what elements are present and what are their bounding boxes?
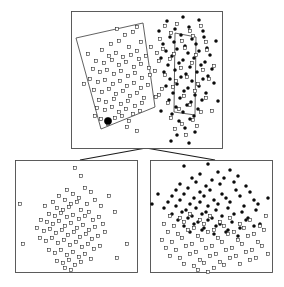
data-point-filled [175, 47, 178, 50]
data-point-filled [182, 164, 185, 167]
data-point-open [241, 243, 244, 246]
data-point-filled [172, 40, 175, 43]
data-point-open [101, 49, 104, 52]
data-point-open [104, 79, 107, 82]
data-point-filled [236, 174, 239, 177]
data-point-filled [200, 228, 203, 231]
data-point-open [68, 206, 71, 209]
data-point-open [209, 215, 212, 218]
data-point-open [40, 219, 43, 222]
data-point-open [122, 56, 125, 59]
data-point-open [74, 167, 77, 170]
data-point-filled [180, 210, 183, 213]
data-point-open [81, 246, 84, 249]
data-point-open [171, 241, 174, 244]
data-point-open [102, 223, 105, 226]
data-point-open [122, 90, 125, 93]
data-point-open [64, 267, 67, 270]
data-point-filled [203, 60, 206, 63]
data-point-open [80, 209, 83, 212]
data-point-open [88, 229, 91, 232]
data-point-open [69, 244, 72, 247]
data-point-filled [228, 200, 231, 203]
data-point-open [189, 213, 192, 216]
data-point-open [197, 235, 200, 238]
data-point-filled [168, 77, 171, 80]
data-point-open [84, 253, 87, 256]
data-point-open [174, 128, 177, 131]
data-point-open [58, 195, 61, 198]
data-point-filled [238, 226, 241, 229]
data-point-open [213, 65, 216, 68]
data-point-filled [187, 141, 190, 144]
data-point-open [237, 239, 240, 242]
data-point-open [257, 241, 260, 244]
data-point-open [205, 247, 208, 250]
data-point-open [169, 58, 172, 61]
data-point-filled [220, 214, 223, 217]
data-point-open [175, 249, 178, 252]
data-point-open [196, 125, 199, 128]
data-point-open [203, 262, 206, 265]
data-point-open [211, 110, 214, 113]
data-point-open [243, 227, 246, 230]
data-point-open [86, 203, 89, 206]
data-point-open [84, 187, 87, 190]
data-point-open [52, 223, 55, 226]
link-left [80, 148, 146, 160]
data-point-filled [182, 89, 185, 92]
data-point-open [159, 38, 162, 41]
data-point-open [183, 263, 186, 266]
data-point-open [139, 110, 142, 113]
data-point-open [170, 32, 173, 35]
data-point-filled [192, 196, 195, 199]
data-point-open [120, 70, 123, 73]
data-point-filled [254, 208, 257, 211]
data-point-open [261, 245, 264, 248]
data-point-filled [248, 190, 251, 193]
data-point-filled [201, 29, 204, 32]
data-point-open [223, 225, 226, 228]
data-point-open [195, 251, 198, 254]
data-point-open [134, 72, 137, 75]
data-point-filled [185, 103, 188, 106]
data-point-open [191, 243, 194, 246]
data-point-open [79, 236, 82, 239]
data-point-open [72, 251, 75, 254]
data-point-filled [208, 188, 211, 191]
data-point-filled [210, 67, 213, 70]
data-point-open [101, 91, 104, 94]
data-point-filled [206, 218, 209, 221]
data-point-filled [242, 204, 245, 207]
data-point-open [70, 203, 73, 206]
data-point-open [127, 75, 130, 78]
data-point-open [110, 43, 113, 46]
data-point-open [175, 80, 178, 83]
data-point-open [83, 83, 86, 86]
data-point-open [49, 228, 52, 231]
data-point-open [145, 55, 148, 58]
data-point-filled [150, 202, 153, 205]
data-point-open [199, 219, 202, 222]
data-point-filled [206, 162, 209, 165]
data-point-filled [182, 192, 185, 195]
data-point-filled [195, 70, 198, 73]
data-point-filled [244, 184, 247, 187]
data-point-filled [190, 37, 193, 40]
data-point-filled [174, 188, 177, 191]
data-point-filled [174, 204, 177, 207]
data-point-open [57, 242, 60, 245]
data-point-open [39, 237, 42, 240]
scatter-tree-figure [0, 0, 284, 287]
data-point-open [225, 249, 228, 252]
data-point-filled [171, 91, 174, 94]
link-right [146, 148, 215, 160]
data-point-open [127, 100, 130, 103]
data-point-open [132, 113, 135, 116]
data-point-filled [202, 35, 205, 38]
data-point-open [72, 214, 75, 217]
data-point-open [67, 234, 70, 237]
data-point-filled [192, 56, 195, 59]
data-point-filled [197, 49, 200, 52]
data-point-filled [194, 180, 197, 183]
